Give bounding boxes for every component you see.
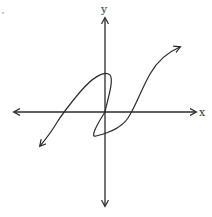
- curve: [94, 47, 180, 136]
- graph-figure: y x: [0, 0, 212, 217]
- y-axis-label: y: [100, 3, 108, 16]
- scan-speck: [2, 12, 4, 14]
- x-axis-label: x: [199, 106, 206, 119]
